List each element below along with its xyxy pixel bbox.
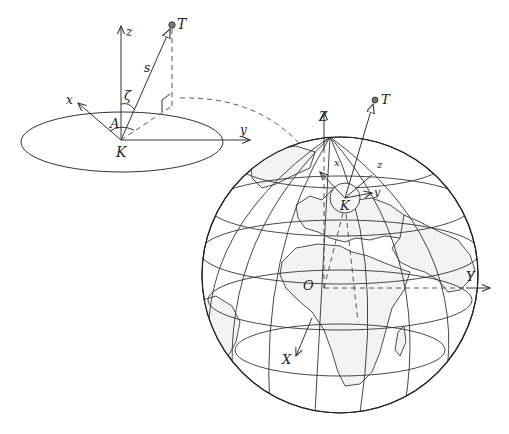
label-y: y [239, 123, 247, 137]
label-global-x: x [334, 157, 340, 168]
horizon-plane [21, 112, 223, 172]
geodetic-frames-diagram: z x y T s ζ A K [0, 0, 509, 434]
label-Y: Y [466, 269, 476, 284]
global-target-T-point [372, 97, 378, 103]
target-T-point [169, 22, 175, 28]
label-K: K [115, 144, 128, 160]
zenith-angle-arc [121, 104, 134, 109]
label-O: O [303, 278, 314, 293]
globe [200, 136, 480, 413]
label-global-T: T [381, 92, 391, 107]
local-frame: z x y T s ζ A K [21, 16, 250, 172]
label-global-K: K [339, 198, 351, 213]
label-z: z [125, 25, 133, 39]
label-s: s [144, 61, 150, 75]
label-Z: Z [318, 110, 328, 124]
label-X: X [281, 352, 292, 367]
label-A: A [109, 116, 119, 131]
label-x: x [66, 93, 73, 107]
label-global-y: y [373, 186, 381, 199]
label-zeta: ζ [124, 88, 132, 103]
label-global-z: z [376, 159, 383, 170]
label-T: T [177, 16, 188, 32]
